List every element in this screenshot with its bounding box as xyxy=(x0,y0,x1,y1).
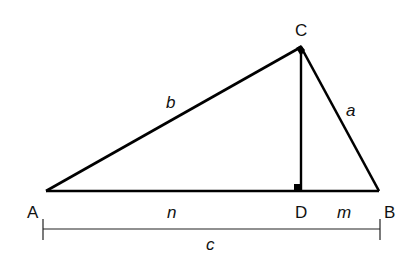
vertex-label-C: C xyxy=(295,21,307,40)
side-label-n: n xyxy=(167,203,176,222)
vertex-label-A: A xyxy=(27,203,39,222)
side-label-c: c xyxy=(206,235,215,254)
side-label-a: a xyxy=(346,101,355,120)
side-AC xyxy=(46,47,301,191)
triangle-diagram: C A D B b a n m c xyxy=(0,0,415,256)
side-CB xyxy=(301,47,379,191)
right-angle-marker-D xyxy=(294,184,301,191)
vertex-label-D: D xyxy=(295,203,307,222)
side-label-m: m xyxy=(337,203,351,222)
side-label-b: b xyxy=(166,93,175,112)
vertex-label-B: B xyxy=(384,203,395,222)
